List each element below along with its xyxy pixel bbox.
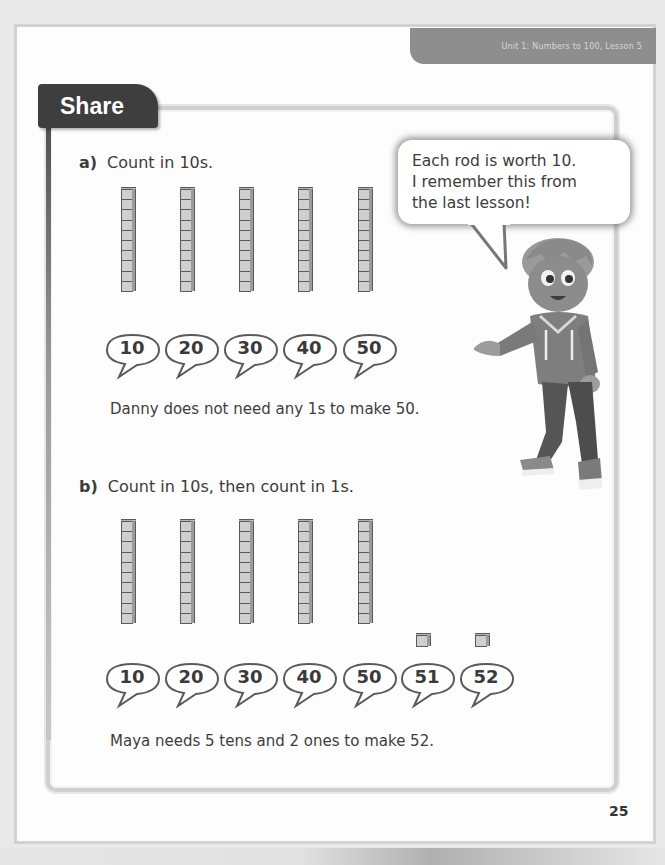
count-value: 50 [342,337,396,358]
count-bubble: 52 [459,662,513,706]
unit-cube [180,281,192,292]
count-value: 52 [459,666,513,687]
character-speech-bubble: Each rod is worth 10. I remember this fr… [398,140,630,224]
frame-left-accent [46,120,51,740]
speech-line-2: I remember this from [412,172,616,193]
page-number: 25 [609,803,628,819]
count-value: 40 [282,337,336,358]
ones-cube [416,633,431,648]
tens-rod [121,519,136,624]
speech-line-1: Each rod is worth 10. [412,151,616,172]
question-b-letter: b) [79,477,98,496]
next-page-edge [0,848,665,865]
conclusion-a: Danny does not need any 1s to make 50. [110,400,420,418]
section-title-tab: Share [38,84,158,128]
count-value: 40 [282,666,336,687]
boy-character-icon [470,232,610,497]
count-value: 30 [223,666,277,687]
count-bubble: 10 [105,662,159,706]
unit-lesson-tab: Unit 1: Numbers to 100, Lesson 5 [410,28,656,64]
count-value: 50 [342,666,396,687]
count-value: 10 [105,337,159,358]
unit-cube [358,281,370,292]
speech-line-3: the last lesson! [412,193,616,214]
count-bubble: 30 [223,662,277,706]
count-value: 51 [400,666,454,687]
question-b-instruction: Count in 10s, then count in 1s. [108,477,354,496]
count-bubble: 40 [282,333,336,377]
unit-cube [298,613,310,624]
count-value: 10 [105,666,159,687]
unit-cube [416,635,428,647]
question-a-letter: a) [79,153,97,172]
unit-cube [121,613,133,624]
count-bubble: 20 [164,333,218,377]
count-bubble: 10 [105,333,159,377]
count-bubble: 40 [282,662,336,706]
tens-rod [180,187,195,292]
unit-cube [475,635,487,647]
tens-rod [298,519,313,624]
conclusion-b: Maya needs 5 tens and 2 ones to make 52. [110,732,434,750]
tens-rod [121,187,136,292]
unit-cube [239,613,251,624]
unit-cube [358,613,370,624]
tens-rod [239,519,254,624]
tens-rod [358,187,373,292]
count-value: 20 [164,666,218,687]
ones-cube [475,633,490,648]
tens-rod [358,519,373,624]
count-bubble: 50 [342,662,396,706]
section-title: Share [60,93,124,120]
count-value: 30 [223,337,277,358]
unit-cube [239,281,251,292]
unit-lesson-label: Unit 1: Numbers to 100, Lesson 5 [501,42,642,51]
count-value: 20 [164,337,218,358]
unit-cube [121,281,133,292]
count-bubble: 51 [400,662,454,706]
question-b: b)Count in 10s, then count in 1s. [79,477,354,496]
unit-cube [298,281,310,292]
count-bubble: 50 [342,333,396,377]
tens-rod [180,519,195,624]
count-bubble: 30 [223,333,277,377]
count-bubble: 20 [164,662,218,706]
unit-cube [180,613,192,624]
tens-rod [239,187,254,292]
tens-rod [298,187,313,292]
question-a-instruction: Count in 10s. [107,153,213,172]
question-a: a)Count in 10s. [79,153,213,172]
